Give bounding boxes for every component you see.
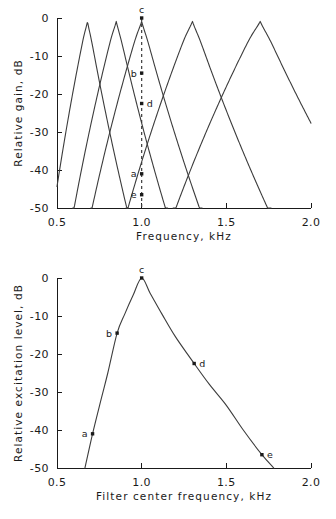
y-tick-label: 0 <box>42 272 49 285</box>
y-tick-label: -10 <box>30 50 49 63</box>
filter-curves <box>57 21 311 208</box>
y-tick-labels: 0-10-20-30-40-50 <box>30 12 49 215</box>
filter-curve-filter-d <box>126 21 271 208</box>
x-axis-title: Filter center frequency, kHz <box>96 490 272 502</box>
axis-lines <box>57 278 311 468</box>
y-tick-label: -40 <box>30 164 49 177</box>
x-tick-label: 1.0 <box>132 216 151 229</box>
data-point-marker-c <box>140 16 143 19</box>
x-tick-labels: 0.51.01.52.0 <box>48 216 321 229</box>
x-axis-ticks <box>57 203 311 208</box>
y-tick-label: -50 <box>30 462 49 475</box>
y-tick-label: -50 <box>30 202 49 215</box>
y-tick-label: -30 <box>30 386 49 399</box>
x-tick-label: 2.0 <box>302 216 321 229</box>
y-tick-label: -30 <box>30 126 49 139</box>
y-tick-label: -20 <box>30 88 49 101</box>
data-point-marker-b <box>140 71 143 74</box>
data-point-marker-a <box>91 432 94 435</box>
point-label-d: d <box>147 98 153 109</box>
x-axis-title: Frequency, kHz <box>136 230 232 242</box>
excitation-pattern-panel: abcde 0-10-20-30-40-50 0.51.01.52.0 Rela… <box>0 260 336 519</box>
x-tick-label: 1.0 <box>132 476 151 489</box>
data-point-marker-d <box>140 102 143 105</box>
data-point-marker-a <box>140 172 143 175</box>
y-tick-label: 0 <box>42 12 49 25</box>
x-tick-label: 0.5 <box>48 216 67 229</box>
point-label-c: c <box>139 4 144 15</box>
filter-gain-chart: abcde 0-10-20-30-40-50 0.51.01.52.0 Rela… <box>0 0 336 260</box>
point-label-c: c <box>139 264 144 275</box>
filter-curve-filter-c <box>91 21 202 208</box>
excitation-curve-line <box>85 278 274 468</box>
data-point-marker-e <box>260 453 263 456</box>
y-axis-title: Relative excitation level, dB <box>12 284 24 462</box>
excitation-pattern-chart: abcde 0-10-20-30-40-50 0.51.01.52.0 Rela… <box>0 260 336 519</box>
data-point-marker-b <box>115 331 118 334</box>
y-axis-ticks <box>57 278 62 468</box>
data-point-marker-e <box>140 193 143 196</box>
y-tick-label: -20 <box>30 348 49 361</box>
y-axis-title: Relative gain, dB <box>12 59 24 167</box>
data-point-marker-d <box>192 362 195 365</box>
point-label-e: e <box>131 189 137 200</box>
point-label-e: e <box>267 449 273 460</box>
point-label-b: b <box>106 328 112 339</box>
x-tick-label: 0.5 <box>48 476 67 489</box>
y-tick-label: -40 <box>30 424 49 437</box>
figure-container: abcde 0-10-20-30-40-50 0.51.01.52.0 Rela… <box>0 0 336 519</box>
x-tick-label: 1.5 <box>217 476 236 489</box>
y-tick-label: -10 <box>30 310 49 323</box>
filter-curve-filter-e <box>173 21 311 208</box>
filter-gain-panel: abcde 0-10-20-30-40-50 0.51.01.52.0 Rela… <box>0 0 336 260</box>
y-tick-labels: 0-10-20-30-40-50 <box>30 272 49 475</box>
excitation-curve <box>85 278 274 468</box>
x-tick-labels: 0.51.01.52.0 <box>48 476 321 489</box>
point-label-a: a <box>131 168 137 179</box>
point-label-d: d <box>199 358 205 369</box>
x-tick-label: 2.0 <box>302 476 321 489</box>
point-label-b: b <box>131 68 137 79</box>
point-label-a: a <box>82 428 88 439</box>
data-point-marker-c <box>140 276 143 279</box>
x-tick-label: 1.5 <box>217 216 236 229</box>
